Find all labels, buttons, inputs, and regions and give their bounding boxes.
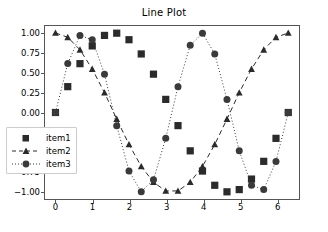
chart-title: Line Plot (0, 7, 328, 18)
data-point (64, 60, 71, 67)
data-point (76, 60, 83, 67)
data-point (113, 122, 120, 129)
data-point (224, 116, 231, 122)
x-axis-tick-labels: 0123456 (44, 202, 300, 218)
data-point (174, 122, 181, 129)
y-tick-label: 0.25 (21, 88, 40, 98)
data-point (101, 32, 108, 39)
data-point (89, 36, 96, 43)
legend-label-item3: item3 (41, 159, 71, 169)
data-point (113, 30, 120, 37)
data-point (76, 32, 83, 39)
y-tick-label: 0.50 (21, 68, 40, 78)
y-tick-label: 0.00 (21, 108, 40, 118)
data-point (236, 89, 243, 95)
legend-item-item1: item1 (11, 131, 71, 144)
data-point (64, 34, 71, 40)
x-tick-label: 2 (127, 202, 132, 212)
data-point (138, 50, 145, 57)
data-point (150, 176, 157, 183)
data-point (150, 71, 157, 78)
legend-marker-triangle-icon (11, 145, 41, 157)
series-line-item3 (55, 33, 288, 192)
plot-area (44, 25, 300, 200)
series-item3 (52, 30, 292, 196)
chart-figure: Line Plot 1.000.750.500.250.00−0.25−0.50… (0, 0, 328, 232)
data-point (223, 96, 230, 103)
data-point (223, 188, 230, 195)
data-point (52, 30, 59, 36)
data-point (211, 50, 218, 57)
legend-item-item3: item3 (11, 157, 71, 170)
series-layer (44, 25, 300, 200)
data-point (187, 179, 194, 185)
data-point (89, 42, 96, 49)
data-point (138, 188, 145, 195)
data-point (285, 109, 292, 116)
y-tick-mark (41, 93, 45, 94)
data-point (125, 168, 132, 175)
legend-label-item1: item1 (41, 133, 71, 143)
y-tick-mark (41, 33, 45, 34)
y-tick-label: −1.00 (14, 187, 40, 197)
x-tick-label: 6 (275, 202, 280, 212)
data-point (64, 83, 71, 90)
legend-marker-circle-icon (11, 158, 41, 170)
x-tick-label: 0 (53, 202, 58, 212)
y-tick-mark (41, 113, 45, 114)
x-tick-label: 4 (201, 202, 206, 212)
x-tick-mark (130, 200, 131, 204)
legend-item-item2: item2 (11, 144, 71, 157)
y-tick-mark (41, 73, 45, 74)
data-point (199, 163, 206, 169)
data-point (272, 135, 279, 142)
data-point (248, 66, 255, 72)
y-tick-label: 1.00 (21, 28, 40, 38)
x-tick-mark (204, 200, 205, 204)
data-point (138, 163, 145, 169)
chart-legend[interactable]: item1 item2 item3 (6, 127, 77, 174)
data-point (101, 89, 108, 95)
data-point (199, 30, 206, 37)
y-tick-mark (41, 192, 45, 193)
y-tick-mark (41, 53, 45, 54)
x-tick-mark (55, 200, 56, 204)
series-item1 (52, 30, 292, 196)
data-point (125, 36, 132, 43)
x-tick-mark (167, 200, 168, 204)
data-point (162, 135, 169, 142)
data-point (285, 30, 292, 36)
data-point (273, 34, 280, 40)
data-point (260, 186, 267, 193)
data-point (162, 96, 169, 103)
series-line-item2 (55, 33, 288, 191)
data-point (236, 147, 243, 154)
data-point (175, 83, 182, 90)
data-point (248, 182, 255, 189)
x-tick-label: 3 (164, 202, 169, 212)
x-tick-label: 5 (238, 202, 243, 212)
data-point (272, 158, 279, 165)
x-tick-mark (93, 200, 94, 204)
data-point (187, 147, 194, 154)
data-point (260, 158, 267, 165)
x-tick-mark (278, 200, 279, 204)
data-point (89, 66, 96, 72)
data-point (211, 182, 218, 189)
data-point (101, 71, 108, 78)
data-point (126, 141, 133, 147)
data-point (52, 109, 59, 116)
data-point (113, 116, 120, 122)
legend-label-item2: item2 (41, 146, 71, 156)
data-point (187, 42, 194, 49)
x-tick-label: 1 (90, 202, 95, 212)
data-point (260, 46, 267, 52)
data-point (211, 141, 218, 147)
y-tick-label: 0.75 (21, 48, 40, 58)
legend-marker-square-icon (11, 132, 41, 144)
data-point (236, 186, 243, 193)
x-tick-mark (241, 200, 242, 204)
